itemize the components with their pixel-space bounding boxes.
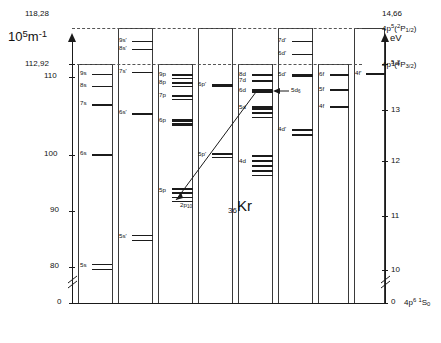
grotrian-diagram-kr: 118,28 112,92 110 100 90 80 0 105m-1 14,… <box>0 0 441 343</box>
pointer-arrowhead-5d6 <box>273 88 280 94</box>
annotation-5d6: 5d6 <box>291 87 300 95</box>
annotation-5d6-text: 5d <box>291 86 298 93</box>
transition-line-group <box>0 0 441 343</box>
annotation-2p10-text: 2p <box>180 201 187 208</box>
transition-line-5p-6d <box>176 92 256 200</box>
transition-arrowhead-down <box>176 192 183 200</box>
annotation-2p10: 2p10 <box>180 202 192 210</box>
annotation-2p10-sub: 10 <box>187 204 192 209</box>
annotation-5d6-sub: 6 <box>298 89 301 94</box>
